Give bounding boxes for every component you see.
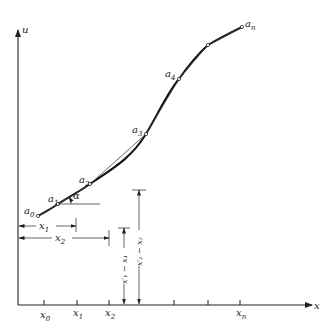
node-points	[36, 25, 243, 217]
chord-polyline	[38, 27, 242, 216]
tick-label-x1: x1	[73, 307, 83, 321]
label-a1: a1	[48, 193, 58, 207]
dimension-diff2-label: x′₂ − x₂	[135, 237, 144, 266]
y-axis: u	[18, 24, 28, 305]
dimension-diff1-label: x′₁ − x₁	[120, 255, 129, 284]
angle-alpha: α	[58, 190, 100, 204]
piecewise-linear-approximation-diagram: u x x0 x1 x2 xn a0 a1 a2 a3 a4	[0, 0, 327, 330]
x-tick-labels: x0 x1 x2 xn	[40, 307, 247, 323]
function-curve	[38, 27, 242, 216]
dimension-x2: x2	[19, 230, 109, 246]
tick-label-xn: xn	[236, 307, 247, 321]
alpha-label: α	[73, 190, 80, 201]
label-an: an	[245, 18, 256, 32]
label-a0: a0	[24, 205, 35, 219]
x-axis-ticks	[44, 300, 240, 305]
x-axis: x	[18, 300, 320, 311]
tick-label-x2: x2	[105, 307, 116, 321]
dimension-x1: x1	[19, 218, 76, 234]
y-axis-label: u	[22, 24, 28, 35]
label-a2: a2	[79, 174, 90, 188]
label-a4: a4	[165, 68, 175, 82]
label-a3: a3	[132, 124, 143, 138]
dimension-diff1: x′₁ − x₁	[118, 228, 130, 304]
point-labels: a0 a1 a2 a3 a4 an	[24, 18, 256, 219]
x-axis-label: x	[314, 300, 320, 311]
dimension-diff2: x′₂ − x₂	[132, 190, 146, 304]
tick-label-x0: x0	[40, 309, 51, 323]
